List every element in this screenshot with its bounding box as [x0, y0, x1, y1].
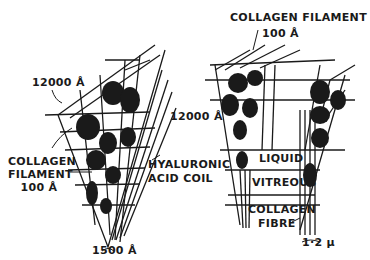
left-top-size-label: 12000 Å [32, 76, 85, 89]
right-side-size-label: 12000 Å [170, 110, 223, 123]
left-filament-label-line2: FILAMENT [8, 168, 70, 181]
collagen-fibre-label-line2: FIBRE [258, 217, 295, 230]
diagram-artwork [0, 0, 370, 260]
left-bottom-size-label: 1500 Å [92, 244, 137, 257]
hyaluronic-coil-label-line2: ACID COIL [148, 172, 213, 185]
left-filament-label-line1: COLLAGEN [8, 155, 70, 168]
hyaluronic-coil-label-line1: HYALURONIC [148, 158, 230, 171]
liquid-label: LIQUID [259, 152, 303, 165]
collagen-fibre-label-line1: COLLAGEN [248, 203, 316, 216]
right-filament-label-line2: 100 Å [262, 27, 299, 40]
right-filament-label-line1: COLLAGEN FILAMENT [230, 11, 367, 24]
left-filament-label-line3: 100 Å [8, 181, 70, 194]
vitreous-label: VITREOUS [252, 176, 317, 189]
right-bottom-size-label: 1·2 µ [302, 236, 335, 249]
